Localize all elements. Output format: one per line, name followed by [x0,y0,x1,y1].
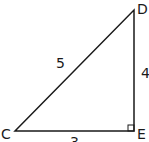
triangle-cde [15,10,134,131]
vertex-label-e: E [137,126,146,142]
right-angle-marker [128,125,134,131]
vertex-label-d: D [137,1,148,17]
side-label-cd: 5 [56,55,65,71]
side-label-de: 4 [141,65,149,81]
triangle-diagram: D C E 5 4 3 [0,0,149,142]
side-label-ce: 3 [70,134,79,142]
vertex-label-c: C [1,126,11,142]
